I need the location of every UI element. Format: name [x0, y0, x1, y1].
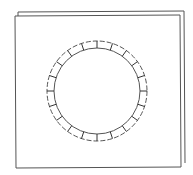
front-sheet [15, 15, 181, 168]
sketch-canvas [0, 0, 193, 175]
